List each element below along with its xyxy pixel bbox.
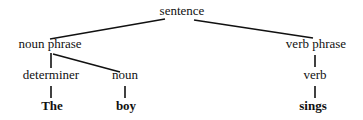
syntax-tree-diagram: sentence noun phrase verb phrase determi… bbox=[0, 0, 363, 120]
node-noun: noun bbox=[112, 68, 138, 82]
node-verb-phrase: verb phrase bbox=[286, 37, 346, 51]
leaf-word-boy: boy bbox=[116, 99, 136, 113]
node-verb: verb bbox=[303, 68, 326, 82]
node-determiner: determiner bbox=[23, 68, 79, 82]
leaf-word-the: The bbox=[41, 99, 63, 113]
node-sentence: sentence bbox=[160, 4, 205, 18]
node-noun-phrase: noun phrase bbox=[18, 37, 81, 51]
leaf-word-sings: sings bbox=[299, 99, 326, 113]
